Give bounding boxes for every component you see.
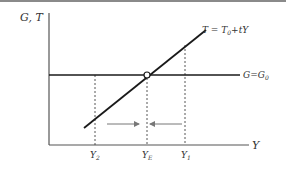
y-axis-label: G, T <box>20 11 44 24</box>
tick-label-y2: Y2 <box>90 150 100 161</box>
equilibrium-marker <box>144 72 150 78</box>
x-axis-label: Y <box>252 139 261 152</box>
government-line-label: G=G0 <box>243 70 269 81</box>
tick-label-ye: YE <box>142 150 153 161</box>
tax-line <box>84 30 206 128</box>
tick-label-y1: Y1 <box>181 150 191 161</box>
diagram-canvas: G, T Y T = T0+tY G=G0 Y2 YE Y1 <box>0 0 286 172</box>
tax-line-label: T = T0+tY <box>202 25 249 36</box>
